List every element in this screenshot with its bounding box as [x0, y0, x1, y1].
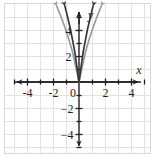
coordinate-plane: -4 -2 2 4 4 2 −2 −4 0 x y: [0, 0, 155, 160]
origin-label: 0: [70, 86, 76, 100]
y-tick-label--4: −4: [61, 128, 74, 142]
x-tick-label-4: 4: [129, 86, 135, 100]
x-tick-label--2: -2: [49, 86, 59, 100]
x-tick-label-2: 2: [103, 86, 109, 100]
x-tick-label--4: -4: [23, 86, 33, 100]
y-axis-label: y: [87, 8, 94, 22]
y-tick-label-4: 4: [66, 24, 72, 38]
y-tick-label--2: −2: [61, 102, 74, 116]
x-axis-label: x: [135, 63, 142, 77]
y-tick-label-2: 2: [66, 50, 72, 64]
graph-figure: -4 -2 2 4 4 2 −2 −4 0 x y: [0, 0, 155, 160]
